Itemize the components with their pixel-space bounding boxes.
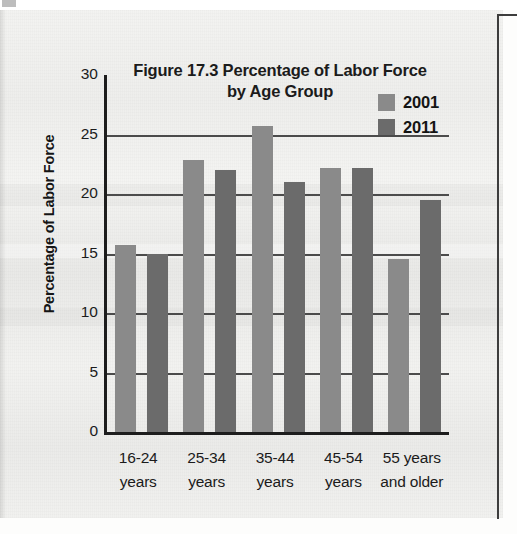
bar-2011-45-54-years — [352, 168, 373, 432]
bar-chart: Figure 17.3 Percentage of Labor Force by… — [0, 8, 503, 508]
scan-corner-mark — [2, 0, 16, 7]
y-tick-label-25: 25 — [64, 125, 98, 143]
x-axis-category-labels: 16-24years25-34years35-44years45-54years… — [104, 446, 449, 500]
y-tick-label-10: 10 — [64, 303, 98, 321]
y-tick-label-20: 20 — [64, 184, 98, 202]
y-tick-label-15: 15 — [64, 244, 98, 262]
x-axis-line — [104, 432, 449, 435]
y-axis-tick-labels: 302520151050 — [56, 68, 98, 440]
bar-2001-25-34-years — [183, 160, 204, 433]
scanned-page: Figure 17.3 Percentage of Labor Force by… — [0, 0, 517, 534]
y-tick-label-0: 0 — [64, 422, 98, 440]
bar-2011-16-24-years — [147, 254, 168, 433]
y-axis-title: Percentage of Labor Force — [41, 109, 57, 339]
y-tick-label-30: 30 — [64, 65, 98, 83]
bar-2011-25-34-years — [215, 170, 236, 432]
bar-2001-55-years-and-older — [388, 259, 409, 432]
x-axis-label-55-years-and-older: 55 yearsand older — [370, 446, 454, 494]
bar-2001-16-24-years — [115, 245, 136, 432]
bar-2011-55-years-and-older — [420, 200, 441, 432]
bar-2011-35-44-years — [284, 182, 305, 432]
bar-2001-35-44-years — [252, 126, 273, 432]
plot-area — [104, 68, 449, 440]
bar-2001-45-54-years — [320, 168, 341, 432]
bars-layer — [107, 75, 449, 432]
y-tick-label-5: 5 — [64, 363, 98, 381]
